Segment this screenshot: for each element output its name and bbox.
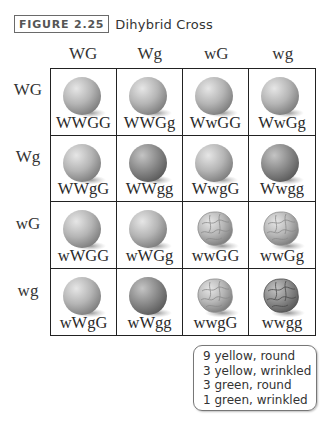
genotype-label: WWGg	[117, 113, 182, 133]
genotype-label: wwgG	[183, 313, 248, 333]
punnett-cell: wWgG	[51, 269, 117, 336]
column-gamete: WG	[50, 44, 117, 64]
summary-line: 9 yellow, round	[203, 349, 316, 364]
punnett-cell: WwGg	[249, 69, 315, 136]
genotype-label: wWGg	[117, 246, 182, 266]
column-gamete: Wg	[117, 44, 184, 64]
row-gamete: wG	[10, 214, 46, 234]
column-gamete: wG	[183, 44, 250, 64]
round-pea-icon	[126, 275, 174, 319]
summary-line: 3 yellow, wrinkled	[203, 364, 316, 379]
punnett-cell: wWgg	[117, 269, 183, 336]
column-gamete-headers: WG Wg wG wg	[50, 44, 316, 64]
punnett-cell: wwGG	[183, 202, 249, 269]
row-gamete: wg	[10, 281, 46, 301]
punnett-cell: Wwgg	[249, 136, 315, 203]
figure-label: FIGURE 2.25	[14, 15, 109, 33]
genotype-label: WwgG	[183, 179, 248, 199]
punnett-cell: WwGG	[183, 69, 249, 136]
punnett-cell: wwgG	[183, 269, 249, 336]
wrinkled-pea-icon	[258, 275, 306, 319]
row-gamete: WG	[10, 80, 46, 100]
punnett-cell: wWGg	[117, 202, 183, 269]
round-pea-icon	[60, 275, 108, 319]
punnett-cell: wwgg	[249, 269, 315, 336]
wrinkled-pea-icon	[192, 275, 240, 319]
punnett-square: WWGG WWGg WwGG WwGg WWgG WWgg WwgG	[50, 68, 316, 336]
genotype-label: wwgg	[249, 313, 315, 333]
punnett-cell: WwgG	[183, 136, 249, 203]
column-gamete: wg	[250, 44, 317, 64]
genotype-label: wWGG	[51, 246, 116, 266]
genotype-label: WWgG	[51, 179, 116, 199]
punnett-cell: WWgg	[117, 136, 183, 203]
genotype-label: WwGg	[249, 113, 315, 133]
genotype-label: WwGG	[183, 113, 248, 133]
punnett-cell: wWGG	[51, 202, 117, 269]
genotype-label: wwGg	[249, 246, 315, 266]
genotype-label: wWgG	[51, 313, 116, 333]
genotype-label: WWgg	[117, 179, 182, 199]
figure-header: FIGURE 2.25 Dihybrid Cross	[14, 15, 213, 33]
punnett-cell: WWgG	[51, 136, 117, 203]
genotype-label: Wwgg	[249, 179, 315, 199]
figure-title: Dihybrid Cross	[115, 17, 213, 32]
punnett-cell: wwGg	[249, 202, 315, 269]
genotype-label: wwGG	[183, 246, 248, 266]
row-gamete: Wg	[10, 147, 46, 167]
punnett-cell: WWGg	[117, 69, 183, 136]
summary-line: 1 green, wrinkled	[203, 393, 316, 408]
genotype-label: WWGG	[51, 113, 116, 133]
punnett-cell: WWGG	[51, 69, 117, 136]
phenotype-ratio-summary: 9 yellow, round 3 yellow, wrinkled 3 gre…	[193, 345, 317, 411]
genotype-label: wWgg	[117, 313, 182, 333]
summary-line: 3 green, round	[203, 378, 316, 393]
